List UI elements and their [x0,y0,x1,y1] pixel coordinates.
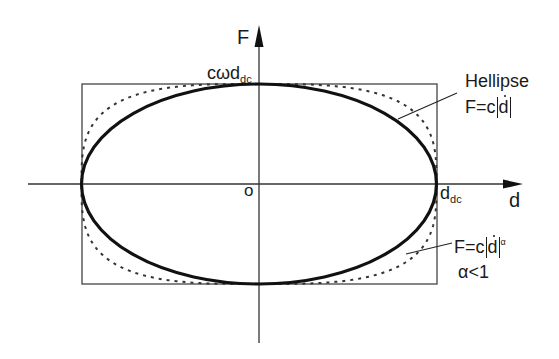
hellipse-title: Hellipse [465,72,529,90]
y-axis-label: F [237,27,249,47]
hellipse-leader-line [398,93,457,119]
hellipse-eq-var: d [499,98,509,116]
hysteresis-diagram [0,0,559,359]
abs-bar-left [497,97,498,118]
origin-label: o [244,182,253,199]
abs-bar-right [510,97,511,118]
top-amplitude-main: cωd [207,63,240,83]
hellipse-equation: F=cd [465,97,512,118]
dashed-equation: F=cdα [454,237,506,258]
y-axis-arrow-icon [255,25,264,47]
dashed-leader-line [406,243,452,254]
x-axis-label: d [509,190,520,210]
dashed-eq-exponent: α [501,237,506,247]
right-amplitude-sub: dc [450,193,462,205]
dashed-eq-prefix: F=c [454,237,485,257]
dashed-eq-var: d [488,238,498,256]
top-amplitude-label: cωddc [207,64,252,82]
hellipse-eq-prefix: F=c [465,97,496,117]
x-axis-arrow-icon [503,180,523,189]
abs-bar-right [499,237,500,258]
right-amplitude-label: ddc [440,184,462,202]
right-amplitude-main: d [440,183,450,203]
abs-bar-left [486,237,487,258]
top-amplitude-sub: dc [240,73,252,85]
dashed-condition: α<1 [458,263,489,281]
